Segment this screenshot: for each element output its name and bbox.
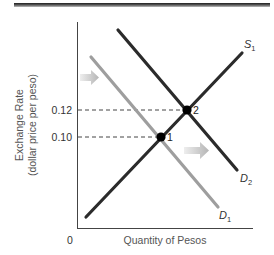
exchange-rate-chart: 1 2 S1 D2 D1 0.12 0.10 0 Quantity of Pes… [0,0,274,255]
shift-arrow-upper [80,70,99,85]
demand-curve-d2 [118,30,237,170]
equilibrium-label-2: 2 [193,104,199,116]
y-tick-0-10: 0.10 [52,131,73,143]
shift-arrow-lower [184,142,209,159]
equilibrium-label-1: 1 [167,131,173,143]
y-axis-label-line1: Exchange Rate [13,89,25,161]
curve-label-s1: S1 [244,38,256,53]
x-axis-label: Quantity of Pesos [124,234,207,246]
top-rule [14,3,270,7]
equilibrium-point-1 [156,132,165,141]
origin-label: 0 [67,234,73,246]
equilibrium-point-2 [182,105,191,114]
y-tick-0-12: 0.12 [52,104,73,116]
demand-curve-d1 [91,57,218,207]
y-axis-label-line2: (dollar price per peso) [26,74,38,176]
curve-label-d1: D1 [219,209,231,224]
curve-label-d2: D2 [240,172,252,187]
